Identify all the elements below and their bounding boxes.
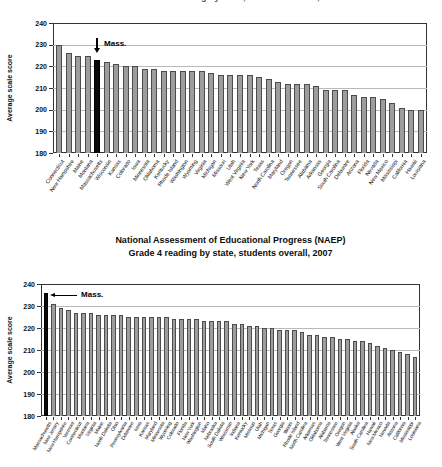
bar-indiana bbox=[232, 324, 237, 416]
bar-new-york bbox=[187, 319, 192, 416]
x-axis-tick-alaska bbox=[355, 417, 356, 420]
bar-montana bbox=[81, 313, 86, 416]
bar-rhode-island bbox=[292, 330, 297, 416]
bar-arkansas bbox=[307, 335, 312, 416]
bar-colorado bbox=[172, 319, 177, 416]
bar-arizona bbox=[390, 350, 395, 416]
bar-massachusetts bbox=[44, 293, 49, 416]
bar-wyoming bbox=[164, 317, 169, 416]
bar-north-carolina bbox=[300, 332, 305, 416]
bar-utah bbox=[255, 326, 260, 416]
y-tick-label-190: 190 bbox=[7, 390, 35, 399]
bar-south-dakota bbox=[217, 321, 222, 416]
y-axis-tick-210 bbox=[37, 350, 41, 351]
bar-illinois bbox=[285, 330, 290, 416]
y-tick-label-240: 240 bbox=[7, 280, 35, 289]
gridline-230 bbox=[41, 306, 420, 307]
bar-virginia bbox=[89, 313, 94, 416]
bar-ohio bbox=[111, 315, 116, 416]
bar-maine bbox=[96, 315, 101, 416]
y-axis-tick-230 bbox=[37, 306, 41, 307]
naep-charts-figure: Grade 4 reading by state, students overa… bbox=[0, 0, 442, 467]
bar-iowa bbox=[134, 317, 139, 416]
mass-annotation-label: Mass. bbox=[81, 291, 103, 299]
bar-michigan bbox=[262, 328, 267, 416]
bar-new-hampshire bbox=[59, 308, 64, 416]
bar-south-carolina bbox=[360, 341, 365, 416]
y-axis-tick-240 bbox=[37, 284, 41, 285]
bar-missouri bbox=[247, 326, 252, 416]
bar-georgia bbox=[277, 330, 282, 416]
bar-new-mexico bbox=[375, 346, 380, 416]
bar-tennessee bbox=[330, 337, 335, 416]
bar-washington bbox=[194, 319, 199, 416]
bar-connecticut bbox=[74, 313, 79, 416]
bar-nebraska bbox=[209, 321, 214, 416]
chart-bottom-plot: 240230220210200190180MassachusettsNew Je… bbox=[0, 0, 442, 467]
bar-alabama bbox=[322, 337, 327, 416]
bar-florida bbox=[179, 319, 184, 416]
bar-oregon bbox=[338, 339, 343, 416]
mass-arrow-line bbox=[55, 295, 77, 297]
bar-kansas bbox=[142, 317, 147, 416]
bar-vermont bbox=[66, 310, 71, 416]
bar-pennsylvania bbox=[119, 315, 124, 416]
bar-north-dakota bbox=[104, 315, 109, 416]
bar-oklahoma bbox=[315, 335, 320, 416]
bar-wisconsin bbox=[224, 321, 229, 416]
y-tick-label-180: 180 bbox=[7, 412, 35, 421]
bar-alaska bbox=[353, 341, 358, 416]
y-axis-tick-200 bbox=[37, 372, 41, 373]
bar-nevada bbox=[383, 348, 388, 416]
y-axis-tick-180 bbox=[37, 416, 41, 417]
bar-texas bbox=[270, 328, 275, 416]
y-tick-label-200: 200 bbox=[7, 368, 35, 377]
y-tick-label-220: 220 bbox=[7, 324, 35, 333]
bar-mississippi bbox=[405, 354, 410, 416]
bar-west-virginia bbox=[345, 339, 350, 416]
bar-new-jersey bbox=[51, 304, 56, 416]
y-tick-label-210: 210 bbox=[7, 346, 35, 355]
bar-louisiana bbox=[413, 357, 418, 416]
bar-minnesota bbox=[157, 317, 162, 416]
bar-maryland bbox=[149, 317, 154, 416]
bar-delaware bbox=[126, 317, 131, 416]
bar-kentucky bbox=[240, 324, 245, 416]
y-tick-label-230: 230 bbox=[7, 302, 35, 311]
bar-hawaii bbox=[368, 343, 373, 416]
bar-california bbox=[398, 352, 403, 416]
y-axis-tick-220 bbox=[37, 328, 41, 329]
y-axis-tick-190 bbox=[37, 394, 41, 395]
bar-idaho bbox=[202, 321, 207, 416]
